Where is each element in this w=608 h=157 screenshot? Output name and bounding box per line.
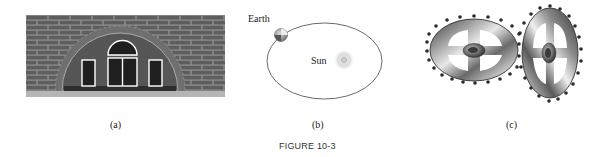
caption-c: (c) bbox=[506, 120, 517, 130]
earth-label: Earth bbox=[248, 14, 270, 24]
window-sill bbox=[64, 86, 176, 91]
sun-label: Sun bbox=[311, 56, 327, 66]
panel-c-gears: (c) bbox=[400, 0, 608, 157]
ground-strip bbox=[26, 91, 225, 97]
caption-b: (b) bbox=[312, 120, 324, 130]
panel-b-orbit: Earth Sun (b) FIGURE 10-3 bbox=[230, 0, 400, 157]
right-window bbox=[149, 60, 162, 86]
caption-a: (a) bbox=[110, 120, 121, 130]
figure-title: FIGURE 10-3 bbox=[279, 141, 336, 151]
left-window bbox=[82, 60, 95, 86]
panel-a-brick-wall: (a) bbox=[0, 0, 230, 157]
arched-window-illustration bbox=[0, 0, 230, 110]
right-gear bbox=[517, 4, 583, 103]
gears-illustration bbox=[400, 0, 608, 110]
left-gear bbox=[425, 14, 521, 85]
sun-icon bbox=[342, 58, 347, 63]
